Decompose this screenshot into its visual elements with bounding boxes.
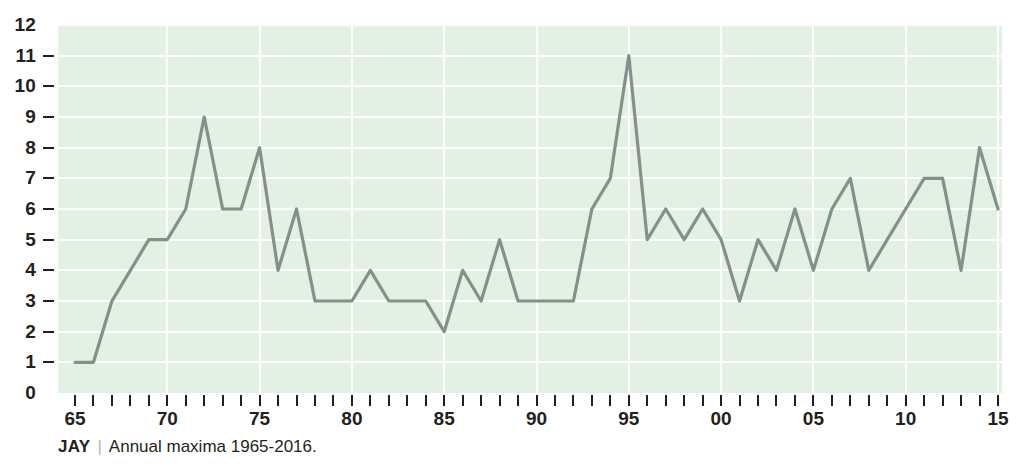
x-axis-tick-label-70: 70 (157, 408, 178, 430)
y-axis-tick-6: 6 (0, 198, 56, 220)
x-axis-tick-mark (425, 395, 427, 406)
x-axis-tick-mark (314, 395, 316, 406)
y-axis-tick-10: 10 (0, 75, 56, 97)
series-line-jay (58, 25, 1002, 393)
y-axis-tick-mark (43, 85, 54, 87)
y-axis-tick-label: 4 (25, 259, 36, 281)
x-axis-tick-label-00: 00 (711, 408, 732, 430)
x-axis-tick-label-15: 15 (987, 408, 1008, 430)
x-axis-tick-mark (960, 395, 962, 406)
y-axis-tick-label: 3 (25, 290, 36, 312)
y-axis-tick-mark (43, 116, 54, 118)
y-axis-tick-0: 0 (0, 382, 56, 404)
y-axis-tick-2: 2 (0, 321, 56, 343)
x-axis-tick-mark (905, 395, 907, 406)
x-axis-tick-mark (332, 395, 334, 406)
x-axis-tick-mark (185, 395, 187, 406)
y-axis-tick-label: 5 (25, 229, 36, 251)
x-axis-tick-mark (536, 395, 538, 406)
x-axis-tick-mark (702, 395, 704, 406)
caption-separator: | (97, 437, 101, 457)
x-axis-tick-mark (277, 395, 279, 406)
x-axis-tick-mark (849, 395, 851, 406)
x-axis-tick-mark (591, 395, 593, 406)
x-axis-tick-mark (462, 395, 464, 406)
x-axis-tick-mark (222, 395, 224, 406)
y-axis-tick-label: 7 (25, 167, 36, 189)
y-axis-tick-7: 7 (0, 167, 56, 189)
x-axis-tick-mark (166, 395, 168, 406)
x-axis-tick-mark (942, 395, 944, 406)
x-axis-tick-mark (665, 395, 667, 406)
x-axis-tick-mark (480, 395, 482, 406)
x-axis-tick-mark (74, 395, 76, 406)
y-axis-tick-label: 1 (25, 351, 36, 373)
y-axis-tick-4: 4 (0, 259, 56, 281)
x-axis-tick-mark (739, 395, 741, 406)
x-axis-tick-mark (129, 395, 131, 406)
x-axis-tick-mark (720, 395, 722, 406)
y-axis-tick-12: 12 (0, 14, 56, 36)
y-axis-tick-mark (43, 331, 54, 333)
y-axis-tick-8: 8 (0, 137, 56, 159)
x-axis-tick-mark (148, 395, 150, 406)
y-axis-tick-mark (43, 24, 54, 26)
x-axis-tick-mark (979, 395, 981, 406)
x-axis-tick-mark (757, 395, 759, 406)
x-axis-tick-mark (259, 395, 261, 406)
y-axis-tick-9: 9 (0, 106, 56, 128)
x-axis-tick-mark (572, 395, 574, 406)
y-axis-tick-label: 10 (14, 75, 36, 97)
x-axis-tick-label-75: 75 (249, 408, 270, 430)
x-axis-tick-mark (683, 395, 685, 406)
y-axis-tick-mark (43, 208, 54, 210)
y-axis-tick-1: 1 (0, 351, 56, 373)
y-axis-tick-5: 5 (0, 229, 56, 251)
y-axis-tick-11: 11 (0, 45, 56, 67)
x-axis-tick-mark (443, 395, 445, 406)
x-axis-tick-mark (369, 395, 371, 406)
y-axis-tick-3: 3 (0, 290, 56, 312)
x-axis-tick-mark (296, 395, 298, 406)
x-axis-tick-mark (517, 395, 519, 406)
x-axis-tick-mark (554, 395, 556, 406)
x-axis-tick-mark (886, 395, 888, 406)
y-axis-tick-mark (43, 55, 54, 57)
y-axis-tick-mark (43, 177, 54, 179)
y-axis-tick-label: 2 (25, 321, 36, 343)
x-axis-tick-mark (794, 395, 796, 406)
y-axis-tick-label: 9 (25, 106, 36, 128)
x-axis: 6570758085909500051015 (58, 393, 1002, 438)
x-axis-tick-label-85: 85 (434, 408, 455, 430)
x-axis-tick-mark (628, 395, 630, 406)
y-axis-tick-mark (43, 392, 54, 394)
y-axis-tick-label: 12 (14, 14, 36, 36)
chart-figure: 0123456789101112 6570758085909500051015 … (0, 0, 1031, 469)
y-axis-tick-label: 11 (16, 45, 37, 67)
x-axis-tick-mark (388, 395, 390, 406)
caption-description: Annual maxima 1965-2016. (109, 437, 317, 457)
x-axis-tick-mark (997, 395, 999, 406)
y-axis-tick-mark (43, 361, 54, 363)
x-axis-tick-mark (646, 395, 648, 406)
caption: JAY | Annual maxima 1965-2016. (58, 437, 317, 457)
x-axis-tick-label-90: 90 (526, 408, 547, 430)
y-axis-tick-label: 6 (25, 198, 36, 220)
x-axis-tick-mark (111, 395, 113, 406)
plot-area (58, 25, 1002, 393)
x-axis-tick-label-65: 65 (64, 408, 85, 430)
x-axis-tick-mark (351, 395, 353, 406)
x-axis-tick-label-10: 10 (895, 408, 916, 430)
y-axis-tick-mark (43, 239, 54, 241)
x-axis-tick-mark (499, 395, 501, 406)
x-axis-tick-mark (406, 395, 408, 406)
x-axis-tick-mark (812, 395, 814, 406)
x-axis-tick-mark (868, 395, 870, 406)
x-axis-tick-label-05: 05 (803, 408, 824, 430)
x-axis-tick-mark (775, 395, 777, 406)
y-axis-tick-label: 8 (25, 137, 36, 159)
caption-station-code: JAY (58, 437, 90, 457)
x-axis-tick-mark (240, 395, 242, 406)
x-axis-tick-label-80: 80 (341, 408, 362, 430)
x-axis-tick-label-95: 95 (618, 408, 639, 430)
